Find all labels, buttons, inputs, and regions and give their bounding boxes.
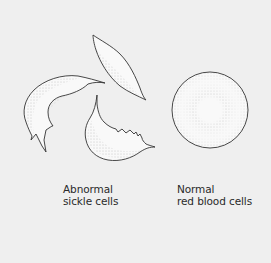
sickle-cell-top (93, 35, 146, 100)
cells-illustration (0, 0, 271, 263)
label-normal-line-2: red blood cells (177, 195, 252, 207)
normal-red-blood-cell (172, 72, 248, 148)
sickle-cell-diagram: Abnormal sickle cells Normal red blood c… (0, 0, 271, 263)
label-abnormal-line-1: Abnormal (63, 183, 118, 195)
sickle-cell-bottom (85, 95, 155, 161)
label-abnormal-sickle-cells: Abnormal sickle cells (63, 183, 118, 207)
label-normal-red-blood-cells: Normal red blood cells (177, 183, 252, 207)
label-normal-line-1: Normal (177, 183, 252, 195)
label-abnormal-line-2: sickle cells (63, 195, 118, 207)
